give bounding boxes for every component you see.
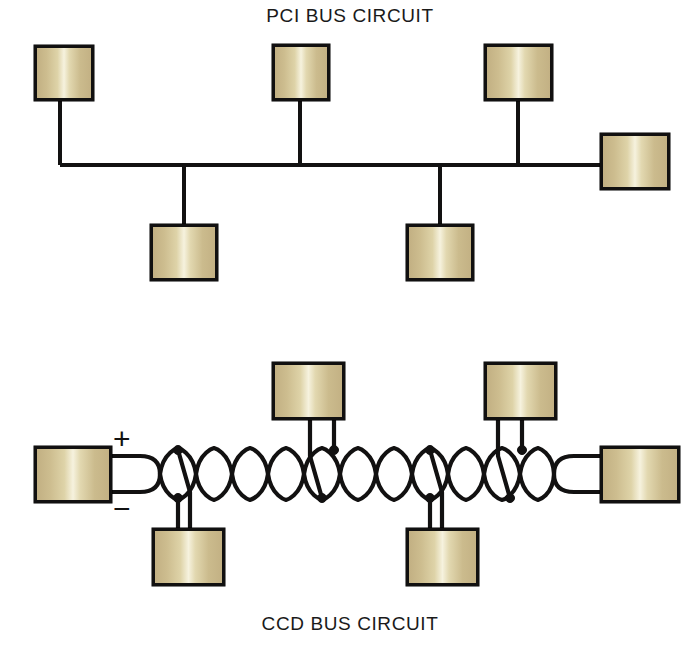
pci-stub-node-5 bbox=[438, 165, 442, 226]
ccd-device-box-top-2[interactable] bbox=[484, 362, 557, 420]
pci-device-box-6[interactable] bbox=[600, 133, 670, 190]
ccd-right-lead-negative bbox=[554, 474, 602, 492]
ccd-device-box-top-1[interactable] bbox=[272, 362, 345, 420]
ccd-tap2-lead-upper bbox=[310, 418, 322, 498]
ccd-circuit-title: CCD BUS CIRCUIT bbox=[0, 613, 700, 635]
ccd-left-lead-negative bbox=[112, 474, 160, 492]
twisted-pair-strand-b bbox=[160, 448, 554, 500]
ccd-terminator-box-right[interactable] bbox=[600, 446, 680, 503]
ccd-tap3-node-upper bbox=[426, 446, 435, 455]
ccd-tap4-node-lower bbox=[506, 494, 515, 503]
ccd-left-lead-positive bbox=[112, 456, 160, 474]
ccd-tap1-node-lower bbox=[174, 494, 183, 503]
twisted-pair-strand-a bbox=[160, 448, 554, 500]
ccd-twisted-pair-overlay bbox=[0, 0, 700, 654]
ccd-tap3-lead-upper bbox=[430, 450, 442, 530]
ccd-tap4-node-upper bbox=[518, 446, 527, 455]
pci-device-box-1[interactable] bbox=[34, 45, 94, 101]
pci-stub-node-4 bbox=[182, 165, 186, 226]
diagram-canvas: PCI BUS CIRCUIT + − bbox=[0, 0, 700, 654]
ccd-tap2-node-upper bbox=[330, 446, 339, 455]
ccd-tap1-node-upper bbox=[174, 446, 183, 455]
pci-device-box-2[interactable] bbox=[272, 44, 330, 101]
ccd-tap3-node-lower bbox=[426, 494, 435, 503]
polarity-plus-label: + bbox=[113, 424, 131, 454]
ccd-tap1-lead-upper bbox=[178, 450, 190, 530]
pci-stub-node-1 bbox=[58, 99, 62, 165]
pci-stub-node-3 bbox=[516, 99, 520, 165]
pci-device-box-5[interactable] bbox=[406, 224, 474, 281]
ccd-tap4-lead-upper bbox=[498, 418, 510, 498]
pci-device-box-3[interactable] bbox=[484, 44, 553, 101]
ccd-device-box-bottom-1[interactable] bbox=[152, 528, 225, 586]
pci-circuit-title: PCI BUS CIRCUIT bbox=[0, 5, 700, 27]
polarity-minus-label: − bbox=[113, 494, 131, 524]
ccd-right-lead-positive bbox=[554, 456, 602, 474]
ccd-terminator-box-left[interactable] bbox=[34, 446, 112, 503]
ccd-device-box-bottom-2[interactable] bbox=[406, 528, 479, 586]
pci-stub-node-2 bbox=[298, 99, 302, 165]
pci-bus-main-line bbox=[60, 163, 602, 167]
ccd-tap2-node-lower bbox=[318, 494, 327, 503]
pci-device-box-4[interactable] bbox=[150, 224, 218, 281]
